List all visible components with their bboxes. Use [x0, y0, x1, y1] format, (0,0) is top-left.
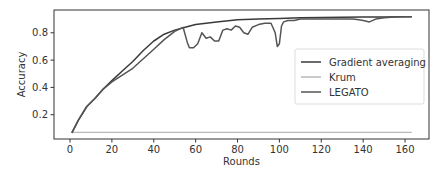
y-axis-ticks: 0.20.40.60.8 — [32, 27, 54, 120]
x-tick-label: 120 — [312, 144, 331, 155]
legend: Gradient averagingKrumLEGATO — [295, 49, 426, 104]
legend-label: LEGATO — [329, 87, 369, 98]
x-axis-ticks: 020406080100120140160 — [67, 139, 415, 155]
y-tick-label: 0.8 — [32, 27, 48, 38]
y-axis-label: Accuracy — [16, 52, 27, 98]
x-tick-label: 100 — [270, 144, 289, 155]
y-tick-label: 0.4 — [32, 82, 48, 93]
legend-label: Gradient averaging — [329, 57, 426, 68]
y-tick-label: 0.6 — [32, 55, 48, 66]
x-tick-label: 80 — [231, 144, 244, 155]
chart-canvas: 020406080100120140160 0.20.40.60.8 Round… — [0, 0, 446, 173]
x-tick-label: 0 — [67, 144, 73, 155]
x-tick-label: 160 — [395, 144, 414, 155]
accuracy-chart: 020406080100120140160 0.20.40.60.8 Round… — [0, 0, 446, 173]
x-tick-label: 20 — [106, 144, 119, 155]
x-axis-label: Rounds — [223, 156, 260, 167]
x-tick-label: 60 — [189, 144, 202, 155]
x-tick-label: 40 — [147, 144, 160, 155]
x-tick-label: 140 — [354, 144, 373, 155]
legend-label: Krum — [329, 72, 356, 83]
y-tick-label: 0.2 — [32, 109, 48, 120]
